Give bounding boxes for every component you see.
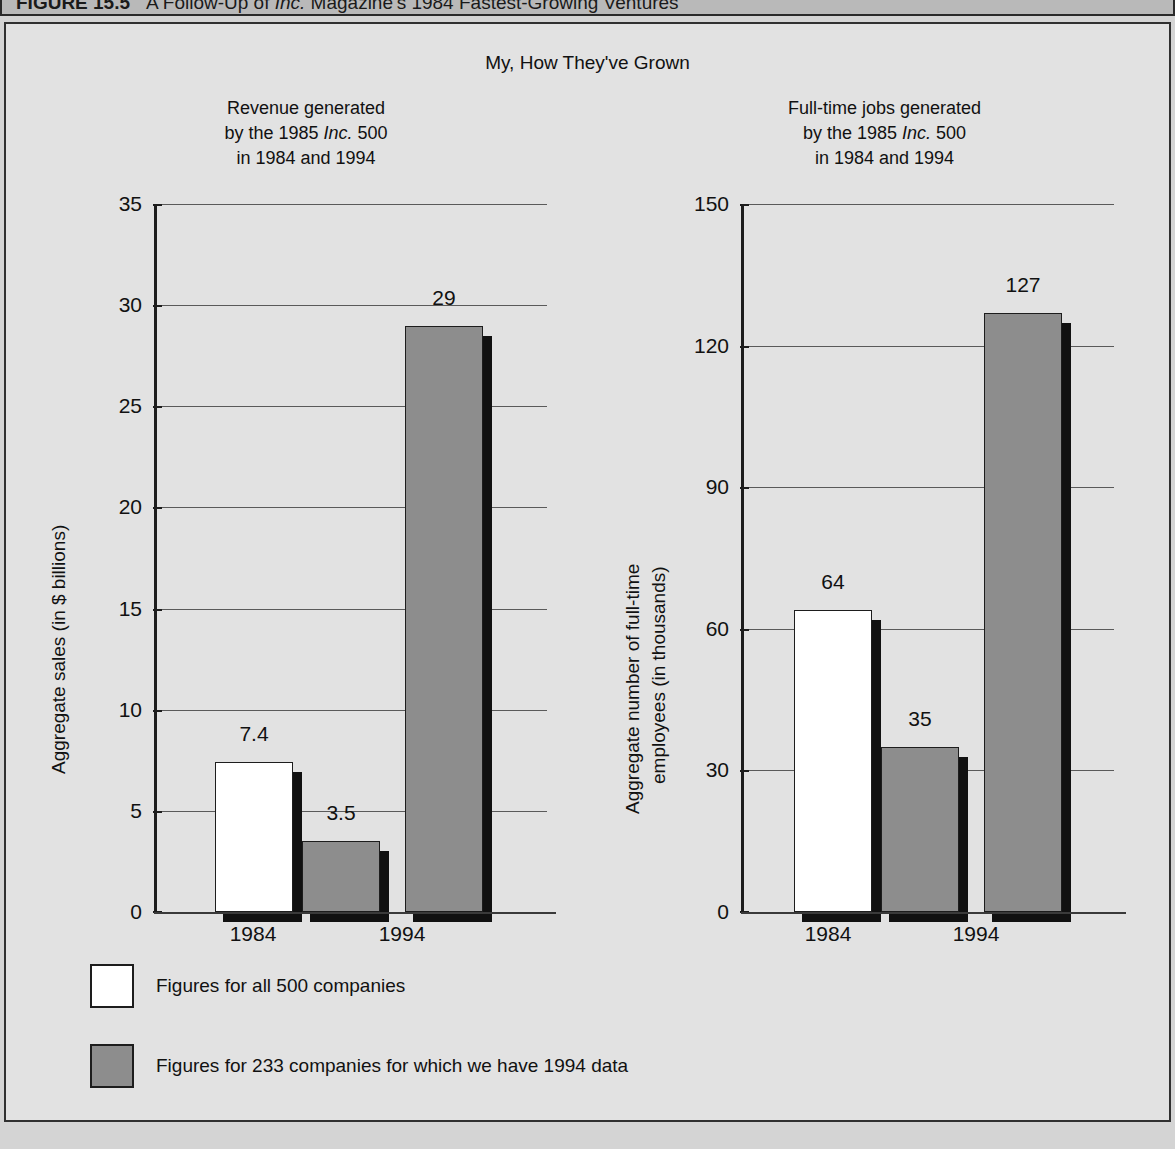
- bar-1984-all-companies[interactable]: [794, 610, 872, 912]
- ytick-mark-20: [153, 507, 162, 509]
- legend-swatch-gray: [90, 1044, 134, 1088]
- bar-label-1984-233: 3.5: [281, 801, 401, 825]
- xtick-label-1984: 1984: [768, 922, 888, 946]
- ytick-label-30: 30: [72, 293, 142, 317]
- bar-1994-233-companies[interactable]: [405, 326, 483, 912]
- ytick-label-10: 10: [72, 698, 142, 722]
- bar-1984-233-companies[interactable]: [302, 841, 380, 912]
- subtitle-line-2-pre: by the 1985: [803, 123, 902, 143]
- chart-jobs-ylabel-line2: employees (in thousands): [646, 566, 672, 784]
- ytick-mark-90: [740, 487, 749, 489]
- legend-label-233-companies: Figures for 233 companies for which we h…: [156, 1055, 628, 1077]
- subtitle-line-3: in 1984 and 1994: [596, 146, 1173, 171]
- bar-1984-all-companies[interactable]: [215, 762, 293, 912]
- bar-1984-233-companies[interactable]: [881, 747, 959, 912]
- ytick-label-0: 0: [659, 900, 729, 924]
- subtitle-line-1: Revenue generated: [6, 96, 606, 121]
- ytick-label-20: 20: [72, 495, 142, 519]
- ytick-mark-120: [740, 346, 749, 348]
- chart-jobs-plot: 64 35 127: [741, 204, 1111, 912]
- bar-shadow-1984-all: [871, 620, 881, 922]
- ytick-mark-35: [153, 204, 162, 206]
- ytick-label-120: 120: [659, 334, 729, 358]
- ytick-mark-30: [740, 770, 749, 772]
- ytick-label-5: 5: [72, 799, 142, 823]
- ytick-label-15: 15: [72, 597, 142, 621]
- bar-label-1984-all: 7.4: [194, 722, 314, 746]
- ytick-label-90: 90: [659, 475, 729, 499]
- subtitle-line-1: Full-time jobs generated: [596, 96, 1173, 121]
- ytick-mark-150: [740, 204, 749, 206]
- chart-revenue-plot: 7.4 3.5 29: [154, 204, 544, 912]
- ytick-label-0: 0: [72, 900, 142, 924]
- legend-item-233-companies[interactable]: Figures for 233 companies for which we h…: [90, 1044, 628, 1088]
- bar-label-1994-233: 29: [384, 286, 504, 310]
- bar-label-1994-233: 127: [963, 273, 1083, 297]
- xtick-label-1994: 1994: [342, 922, 462, 946]
- figure-caption: FIGURE 15.5 A Follow-Up of Inc. Magazine…: [16, 0, 679, 14]
- ytick-mark-60: [740, 629, 749, 631]
- subtitle-line-2: by the 1985 Inc. 500: [596, 121, 1173, 146]
- ytick-label-150: 150: [659, 192, 729, 216]
- subtitle-line-2: by the 1985 Inc. 500: [6, 121, 606, 146]
- subtitle-line-2-italic: Inc.: [324, 123, 353, 143]
- subtitle-line-2-italic: Inc.: [902, 123, 931, 143]
- figure-caption-italic: Inc.: [275, 0, 306, 13]
- xtick-label-1994: 1994: [916, 922, 1036, 946]
- bar-shadow-1994-233: [482, 336, 492, 922]
- chart-revenue-ylabel: Aggregate sales (in $ billions): [48, 525, 70, 774]
- figure-number: FIGURE 15.5: [16, 0, 130, 13]
- xtick-label-1984: 1984: [193, 922, 313, 946]
- bar-1994-233-companies[interactable]: [984, 313, 1062, 912]
- chart-jobs-ylabel-line1: Aggregate number of full-time: [620, 564, 646, 814]
- ytick-mark-10: [153, 710, 162, 712]
- figure-caption-part2: Magazine's 1984 Fastest-Growing Ventures: [305, 0, 678, 13]
- bar-shadow-1984-all: [292, 772, 302, 922]
- legend-swatch-white: [90, 964, 134, 1008]
- ytick-label-25: 25: [72, 394, 142, 418]
- ytick-label-60: 60: [659, 617, 729, 641]
- figure-caption-bar: FIGURE 15.5 A Follow-Up of Inc. Magazine…: [0, 0, 1175, 16]
- chart-revenue: Revenue generated by the 1985 Inc. 500 i…: [6, 24, 606, 1124]
- bar-shadow-1994-233: [1061, 323, 1071, 922]
- bar-label-1984-233: 35: [860, 707, 980, 731]
- subtitle-line-2-post: 500: [353, 123, 388, 143]
- legend-label-all-companies: Figures for all 500 companies: [156, 975, 405, 997]
- ytick-mark-30: [153, 305, 162, 307]
- chart-jobs: Full-time jobs generated by the 1985 Inc…: [596, 24, 1173, 1124]
- bar-label-1984-all: 64: [773, 570, 893, 594]
- ytick-label-35: 35: [72, 192, 142, 216]
- subtitle-line-2-pre: by the 1985: [224, 123, 323, 143]
- ytick-mark-5: [153, 811, 162, 813]
- chart-jobs-subtitle: Full-time jobs generated by the 1985 Inc…: [596, 96, 1173, 171]
- gridline-150: [744, 204, 1114, 205]
- chart-jobs-baseline: [741, 912, 1126, 914]
- chart-revenue-subtitle: Revenue generated by the 1985 Inc. 500 i…: [6, 96, 606, 171]
- legend-item-all-companies[interactable]: Figures for all 500 companies: [90, 964, 405, 1008]
- gridline-35: [157, 204, 547, 205]
- ytick-mark-15: [153, 609, 162, 611]
- ytick-mark-25: [153, 406, 162, 408]
- bar-shadow-1984-233: [958, 757, 968, 922]
- figure-root: FIGURE 15.5 A Follow-Up of Inc. Magazine…: [0, 0, 1175, 1149]
- ytick-label-30: 30: [659, 758, 729, 782]
- chart-revenue-baseline: [154, 912, 556, 914]
- subtitle-line-2-post: 500: [931, 123, 966, 143]
- figure-caption-part1: A Follow-Up of: [146, 0, 275, 13]
- chart-panel: My, How They've Grown Revenue generated …: [4, 22, 1171, 1122]
- subtitle-line-3: in 1984 and 1994: [6, 146, 606, 171]
